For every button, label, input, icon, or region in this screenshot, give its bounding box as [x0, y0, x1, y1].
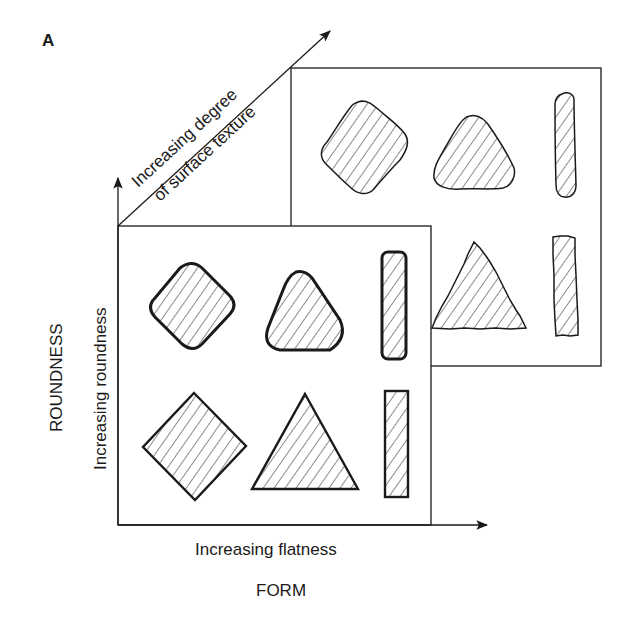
rounded-bar-shape: [382, 252, 406, 359]
bar-shape: [385, 391, 408, 497]
roundness-axis-label: Increasing roundness: [91, 307, 110, 470]
panel-label: A: [42, 31, 54, 50]
shape-classification-diagram: A Increasing degree of surface texture: [0, 0, 635, 628]
smooth-surface-panel: [118, 226, 431, 525]
rough-bar-shape: [553, 236, 578, 336]
form-axis-title: FORM: [256, 581, 306, 600]
flatness-axis-label: Increasing flatness: [195, 540, 337, 559]
rough-rounded-bar-shape: [555, 93, 576, 197]
roundness-axis-title: ROUNDNESS: [47, 323, 66, 432]
